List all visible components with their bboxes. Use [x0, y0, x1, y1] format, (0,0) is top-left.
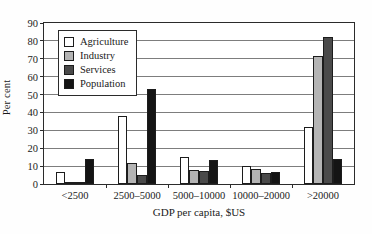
legend-swatch-population-icon — [64, 79, 74, 89]
plot-area: 0102030405060708090 <25002500–50005000–1… — [43, 22, 355, 185]
y-axis-tick — [40, 76, 44, 77]
bar-agriculture-4 — [304, 127, 314, 184]
y-axis-title-text: Per cent — [2, 80, 13, 116]
bar-industry-0 — [65, 182, 75, 184]
y-axis-tick — [40, 40, 44, 41]
legend-item-industry: Industry — [64, 49, 128, 63]
x-axis-tick — [168, 184, 169, 188]
y-axis-tick — [40, 23, 44, 24]
legend-item-agriculture: Agriculture — [64, 35, 128, 49]
bar-population-1 — [147, 89, 157, 184]
legend-item-population: Population — [64, 77, 128, 91]
y-axis-title: Per cent — [0, 0, 14, 195]
legend-label: Agriculture — [80, 37, 128, 48]
y-axis-tick — [40, 184, 44, 185]
bar-chart-figure: Per cent 0102030405060708090 <25002500–5… — [0, 0, 372, 234]
legend-label: Population — [80, 79, 126, 90]
bar-services-3 — [261, 173, 271, 184]
y-axis-tick-label: 20 — [28, 143, 39, 154]
legend-swatch-industry-icon — [64, 51, 74, 61]
x-axis-tick-label: <2500 — [62, 190, 89, 201]
y-axis-tick — [40, 94, 44, 95]
legend-label: Services — [80, 65, 116, 76]
x-axis-tick — [292, 184, 293, 188]
y-axis-tick — [40, 148, 44, 149]
bar-industry-2 — [189, 170, 199, 184]
bar-agriculture-2 — [180, 157, 190, 184]
y-axis-tick-label: 60 — [28, 71, 39, 82]
bar-services-1 — [137, 175, 147, 184]
legend-swatch-services-icon — [64, 65, 74, 75]
y-axis-tick-label: 40 — [28, 107, 39, 118]
bar-population-0 — [85, 159, 95, 184]
bar-services-2 — [199, 171, 209, 184]
bar-services-4 — [323, 37, 333, 184]
bar-industry-3 — [251, 169, 261, 184]
bar-services-0 — [75, 182, 85, 184]
x-axis-tick-label: 5000–10000 — [173, 190, 226, 201]
bar-population-4 — [333, 159, 343, 184]
bar-population-2 — [209, 160, 219, 184]
y-axis-tick — [40, 58, 44, 59]
bar-industry-1 — [127, 163, 137, 184]
legend-item-services: Services — [64, 63, 128, 77]
bar-population-3 — [271, 172, 281, 184]
y-axis-tick-label: 50 — [28, 89, 39, 100]
y-axis-tick — [40, 166, 44, 167]
x-axis-tick — [106, 184, 107, 188]
bar-agriculture-3 — [242, 166, 252, 184]
y-axis-tick-label: 90 — [28, 18, 39, 29]
x-axis-title: GDP per capita, $US — [43, 206, 355, 218]
legend-swatch-agriculture-icon — [64, 37, 74, 47]
x-axis-tick-label: 10000–20000 — [232, 190, 290, 201]
gridline — [44, 112, 354, 113]
x-axis-tick — [230, 184, 231, 188]
x-axis-tick-label: 2500–5000 — [113, 190, 160, 201]
y-axis-tick-label: 70 — [28, 53, 39, 64]
y-axis-tick-label: 30 — [28, 125, 39, 136]
legend-label: Industry — [80, 51, 115, 62]
bar-agriculture-1 — [118, 116, 128, 184]
y-axis-tick-label: 10 — [28, 161, 39, 172]
bar-agriculture-0 — [56, 172, 66, 184]
legend: AgricultureIndustryServicesPopulation — [58, 30, 137, 96]
y-axis-tick-label: 80 — [28, 35, 39, 46]
y-axis-tick-label: 0 — [33, 179, 38, 190]
y-axis-tick — [40, 130, 44, 131]
x-axis-tick-label: >20000 — [307, 190, 339, 201]
bar-industry-4 — [313, 56, 323, 184]
y-axis-tick — [40, 112, 44, 113]
